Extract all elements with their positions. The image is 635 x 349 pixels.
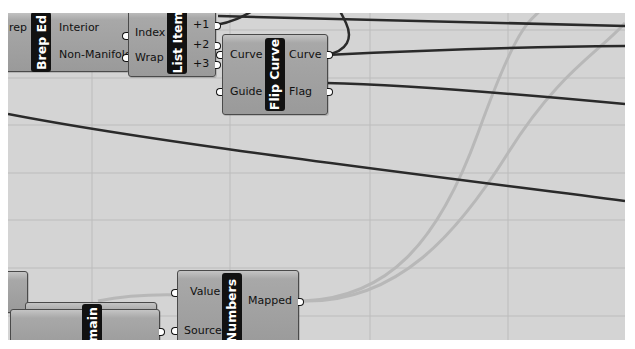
input-grip-value[interactable] (171, 289, 177, 297)
input-label-brep: rep (9, 21, 27, 34)
output-label-flag: Flag (289, 85, 312, 98)
input-label-curve: Curve (230, 48, 262, 61)
input-grip-source[interactable] (171, 327, 177, 335)
input-label-wrap: Wrap (135, 51, 164, 64)
remap-numbers-nickname: Numbers (222, 273, 242, 340)
output-label-curve: Curve (289, 48, 321, 61)
input-grip-index[interactable] (122, 32, 128, 40)
list-item-component[interactable]: Index Wrap List Item +1 +2 +3 (128, 13, 216, 77)
flip-curve-component[interactable]: Curve Guide Flip Curve Curve Flag (222, 34, 328, 115)
input-grip-guide[interactable] (216, 88, 222, 96)
output-label-plus1: +1 (193, 18, 209, 31)
input-grip-curve[interactable] (216, 51, 222, 59)
output-label-non-manifold: Non-Manifold (59, 48, 132, 61)
brep-edges-component[interactable]: rep Brep Ed Interior Non-Manifold (8, 13, 130, 72)
remap-numbers-component[interactable]: Value Source Numbers Mapped (177, 270, 299, 340)
output-label-plus3: +3 (193, 57, 209, 70)
output-label-interior: Interior (59, 21, 99, 34)
brep-edges-nickname: Brep Ed (31, 13, 51, 72)
input-label-index: Index (135, 26, 165, 39)
output-label-plus2: +2 (193, 38, 209, 51)
flip-curve-nickname: Flip Curve (265, 38, 285, 111)
domain-nickname: main (82, 304, 102, 340)
input-label-source: Source (184, 324, 222, 337)
list-item-nickname: List Item (167, 13, 187, 74)
domain-component[interactable]: main (10, 309, 160, 340)
grasshopper-canvas[interactable]: rep Brep Ed Interior Non-Manifold Index … (8, 13, 625, 340)
input-grip-wrap[interactable] (122, 54, 128, 62)
output-label-mapped: Mapped (248, 294, 292, 307)
input-label-value: Value (190, 285, 220, 298)
input-label-guide: Guide (230, 85, 262, 98)
